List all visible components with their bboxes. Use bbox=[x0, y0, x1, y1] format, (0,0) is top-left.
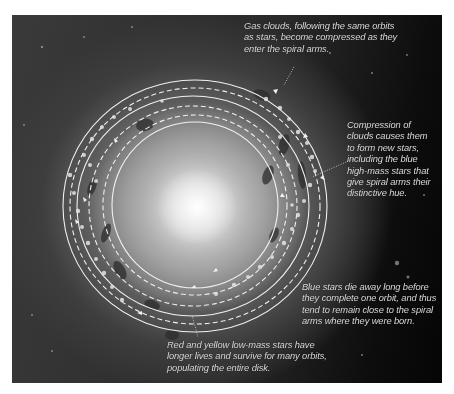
caption-line: populating the entire disk. bbox=[167, 363, 327, 374]
red-yellow-stars-annotation: Red and yellow low-mass stars have longe… bbox=[167, 340, 327, 374]
caption-line: Compression of bbox=[347, 120, 431, 131]
galaxy-illustration: Gas clouds, following the same orbits as… bbox=[12, 15, 442, 383]
caption-line: longer lives and survive for many orbits… bbox=[167, 351, 327, 362]
compression-annotation: Compression of clouds causes them to for… bbox=[347, 120, 431, 200]
arrow-icon bbox=[280, 193, 285, 197]
caption-line: including the blue bbox=[347, 154, 431, 165]
caption-line: arms where they were born. bbox=[302, 316, 436, 327]
caption-line: they complete one orbit, and thus bbox=[302, 293, 436, 304]
arrow-icon bbox=[191, 285, 196, 288]
caption-line: give spiral arms their bbox=[347, 177, 431, 188]
gas-clouds-annotation: Gas clouds, following the same orbits as… bbox=[244, 21, 397, 55]
arrow-icon bbox=[320, 175, 325, 180]
arrow-icon bbox=[83, 197, 87, 202]
caption-line: Gas clouds, following the same orbits bbox=[244, 21, 397, 32]
arrow-icon bbox=[273, 89, 278, 94]
blue-stars-annotation: Blue stars die away long before they com… bbox=[302, 282, 436, 328]
caption-line: high-mass stars that bbox=[347, 166, 431, 177]
caption-line: enter the spiral arms. bbox=[244, 44, 397, 55]
caption-line: as stars, become compressed as they bbox=[244, 32, 397, 43]
caption-line: Red and yellow low-mass stars have bbox=[167, 340, 327, 351]
galaxy-core bbox=[137, 149, 257, 265]
arrow-icon bbox=[213, 268, 218, 272]
caption-line: to form new stars, bbox=[347, 143, 431, 154]
caption-line: distinctive hue. bbox=[347, 188, 431, 199]
caption-line: clouds causes them bbox=[347, 131, 431, 142]
caption-line: Blue stars die away long before bbox=[302, 282, 436, 293]
caption-line: tend to remain close to the spiral bbox=[302, 305, 436, 316]
